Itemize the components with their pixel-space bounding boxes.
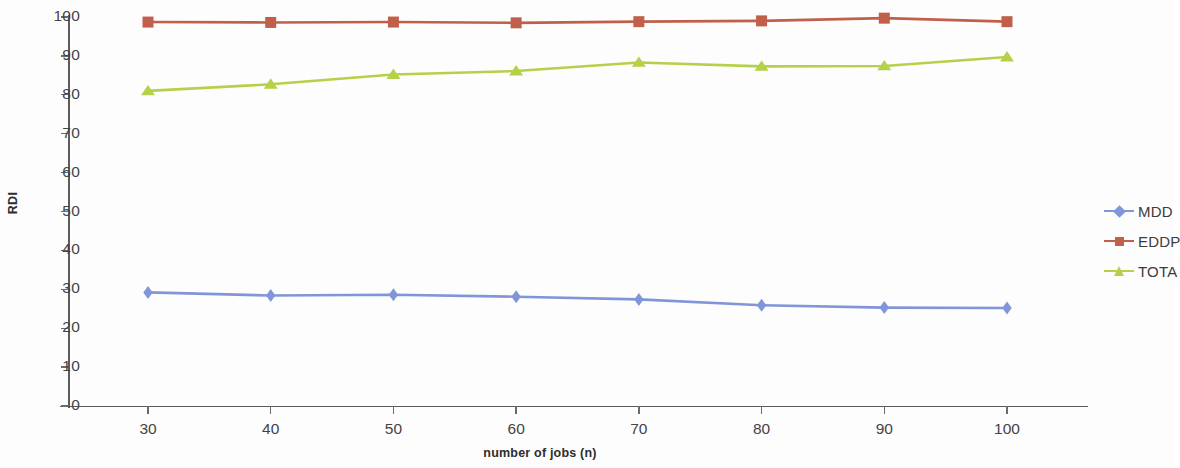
data-point-marker	[633, 16, 644, 27]
legend-entry-tota[interactable]: TOTA	[1104, 256, 1174, 286]
legend-label: MDD	[1138, 203, 1173, 220]
data-point-marker	[757, 299, 766, 312]
series-line	[148, 18, 1007, 23]
data-point-marker	[511, 17, 522, 28]
series-tota	[141, 51, 1014, 95]
legend-swatch-triangle-icon	[1104, 264, 1134, 278]
series-mdd	[143, 286, 1011, 315]
data-point-marker	[879, 13, 890, 24]
data-point-marker	[1002, 16, 1013, 27]
data-point-marker	[634, 293, 643, 306]
x-axis-title: number of jobs (n)	[0, 446, 1080, 460]
legend-label: EDDP	[1138, 233, 1180, 250]
data-point-marker	[265, 17, 276, 28]
data-point-marker	[388, 17, 399, 28]
chart-legend: MDDEDDPTOTA	[1104, 196, 1174, 286]
legend-label: TOTA	[1138, 263, 1177, 280]
data-point-marker	[266, 289, 275, 302]
data-point-marker	[1002, 301, 1011, 314]
data-point-marker	[143, 17, 154, 28]
series-line	[148, 57, 1007, 91]
series-eddp	[143, 13, 1013, 29]
legend-entry-eddp[interactable]: EDDP	[1104, 226, 1174, 256]
legend-swatch-square-icon	[1104, 234, 1134, 248]
data-point-marker	[756, 15, 767, 26]
data-point-marker	[143, 286, 152, 299]
data-point-marker	[389, 288, 398, 301]
legend-marker-triangle-icon	[1114, 266, 1124, 276]
data-point-marker	[880, 301, 889, 314]
series-line	[148, 292, 1007, 308]
legend-entry-mdd[interactable]: MDD	[1104, 196, 1174, 226]
legend-marker-square-icon	[1115, 237, 1124, 246]
legend-swatch-diamond-icon	[1104, 204, 1134, 218]
legend-marker-diamond-icon	[1113, 205, 1126, 218]
data-point-marker	[511, 290, 520, 303]
